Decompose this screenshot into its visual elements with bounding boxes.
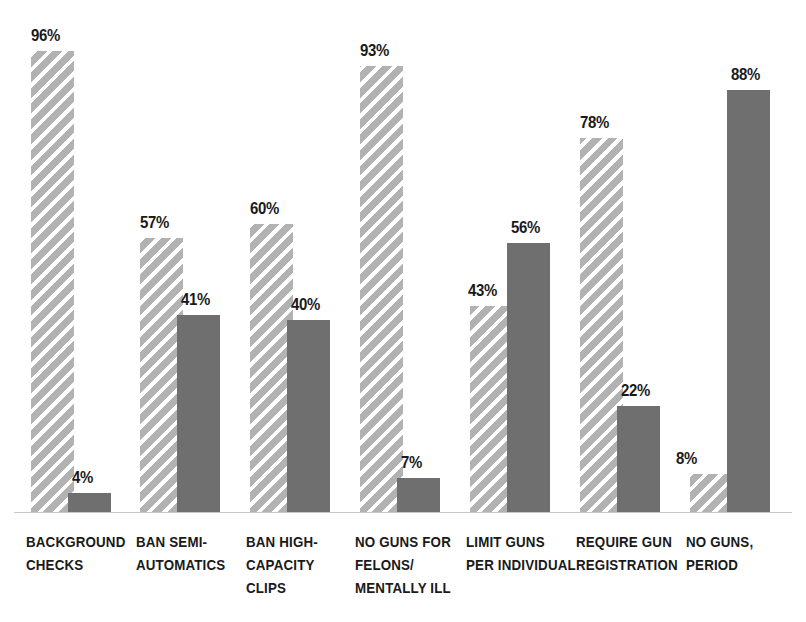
- value-label-hatched-1: 96%: [31, 26, 60, 46]
- value-label-hatched-5: 43%: [468, 281, 497, 301]
- category-label-5: Limit guns per individual: [466, 530, 576, 576]
- value-label-hatched-2: 57%: [140, 213, 169, 233]
- bar-hatched-1: [31, 51, 74, 512]
- value-label-solid-4: 7%: [401, 453, 422, 473]
- value-label-solid-5: 56%: [511, 218, 540, 238]
- category-label-1: Background checks: [26, 530, 125, 576]
- bar-solid-2: [177, 315, 220, 512]
- value-label-solid-1: 4%: [72, 468, 93, 488]
- axis-baseline: [14, 512, 792, 513]
- bar-chart: 96%4%Background checks57%41%Ban semi- au…: [0, 0, 806, 622]
- bar-solid-3: [287, 320, 330, 512]
- category-label-2: Ban semi- automatics: [136, 530, 225, 576]
- bar-hatched-4: [360, 66, 403, 512]
- value-label-solid-6: 22%: [621, 381, 650, 401]
- bar-solid-7: [727, 90, 770, 512]
- category-label-4: No guns for felons/ mentally ill: [355, 530, 451, 599]
- value-label-hatched-4: 93%: [360, 41, 389, 61]
- plot-area: [0, 0, 806, 513]
- value-label-hatched-6: 78%: [580, 113, 609, 133]
- bar-solid-6: [617, 406, 660, 512]
- value-label-solid-3: 40%: [291, 295, 320, 315]
- bar-solid-4: [397, 478, 440, 512]
- bar-solid-5: [507, 243, 550, 512]
- value-label-solid-2: 41%: [181, 290, 210, 310]
- bar-solid-1: [68, 493, 111, 512]
- value-label-hatched-7: 8%: [676, 449, 697, 469]
- category-label-3: Ban high- capacity clips: [246, 530, 318, 599]
- value-label-hatched-3: 60%: [250, 199, 279, 219]
- category-label-7: No guns, period: [686, 530, 753, 576]
- category-label-6: Require gun registration: [576, 530, 678, 576]
- value-label-solid-7: 88%: [731, 65, 760, 85]
